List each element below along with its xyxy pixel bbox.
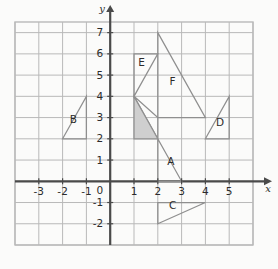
y-tick-label: -1	[93, 196, 103, 208]
x-tick-label: 1	[131, 185, 138, 197]
origin-label: 0	[97, 184, 104, 196]
y-axis-arrowhead	[106, 5, 114, 12]
y-tick-label: 3	[97, 111, 104, 123]
tick-labels: -3-2-1123457654321-1-20	[34, 26, 233, 229]
shape-label-e: E	[138, 56, 145, 68]
y-tick-label: 5	[97, 69, 104, 81]
y-tick-label: 2	[97, 132, 104, 144]
x-tick-label: 3	[178, 185, 185, 197]
x-tick-label: 5	[226, 185, 233, 197]
y-tick-label: -2	[93, 217, 103, 229]
axis-labels: xy	[98, 3, 271, 194]
shape-label-d: D	[216, 116, 224, 128]
x-tick-label: -2	[57, 185, 67, 197]
shape-label-f: F	[170, 75, 176, 87]
x-tick-label: 4	[202, 185, 209, 197]
coordinate-plane-figure: -3-2-1123457654321-1-20 ABCDEF xy	[0, 0, 278, 269]
y-tick-label: 1	[97, 154, 104, 166]
x-tick-label: -3	[34, 185, 44, 197]
y-axis-label: y	[98, 3, 105, 14]
shape-label-a: A	[167, 155, 175, 167]
coordinate-plane-svg: -3-2-1123457654321-1-20 ABCDEF xy	[0, 0, 278, 269]
shape-label-b: B	[70, 113, 77, 125]
shape-label-c: C	[169, 199, 176, 211]
y-tick-label: 4	[97, 90, 104, 102]
x-tick-label: 2	[154, 185, 161, 197]
y-tick-label: 6	[97, 47, 104, 59]
x-tick-label: -1	[81, 185, 91, 197]
x-axis-label: x	[265, 183, 271, 194]
y-tick-label: 7	[97, 26, 104, 38]
